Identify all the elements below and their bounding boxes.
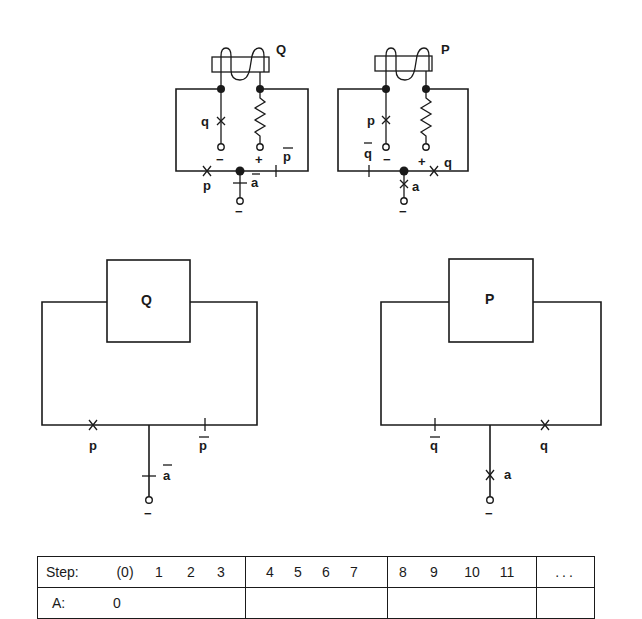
relay-coil-p: [375, 56, 432, 71]
contact-qbar-label: q: [364, 146, 372, 161]
step-number: 7: [340, 564, 368, 580]
step-row: Step: (0) 1 2 3 4 5 6 7 8 9 10 11: [38, 557, 595, 588]
minus-sign: −: [216, 152, 224, 167]
step-number: 4: [256, 564, 284, 580]
relay-label-q: Q: [276, 42, 286, 57]
ground-terminal: [487, 497, 494, 504]
contact-q-label: q: [201, 114, 209, 129]
contact-q-label: q: [540, 438, 548, 453]
coil-winding-icon: [221, 48, 264, 89]
contact-p-label: p: [367, 113, 375, 128]
step-number: 6: [312, 564, 340, 580]
step-number: 11: [492, 564, 522, 580]
contact-pbar-label: p: [283, 149, 291, 164]
minus-sign: −: [235, 204, 243, 219]
register-a-cell-group-1: A: 0: [38, 588, 246, 619]
resistor-icon: [421, 89, 431, 144]
top-right-relay-circuit: P p − + q q a −: [338, 42, 468, 219]
block-p-label: P: [485, 291, 494, 307]
step-cell-group-2: 4 5 6 7: [246, 557, 388, 588]
contact-qbar-label: q: [430, 438, 438, 453]
outer-loop: [42, 302, 257, 425]
bottom-right-block-circuit: P q q a −: [381, 259, 601, 521]
step-number: 10: [452, 564, 492, 580]
step-number: 3: [206, 564, 236, 580]
ground-terminal: [146, 497, 153, 504]
ellipsis: ...: [555, 564, 576, 580]
minus-sign: −: [383, 152, 391, 167]
minus-sign: −: [399, 204, 407, 219]
top-left-relay-circuit: Q q − + p p a −: [176, 42, 308, 219]
terminal-plus: [257, 144, 263, 150]
minus-sign: −: [485, 506, 493, 521]
outer-loop: [381, 302, 601, 425]
block-q-label: Q: [141, 292, 152, 308]
contact-p-label: p: [89, 438, 97, 453]
plus-sign: +: [255, 152, 263, 167]
step-table: Step: (0) 1 2 3 4 5 6 7 8 9 10 11: [37, 556, 595, 619]
step-number: 8: [390, 564, 416, 580]
register-a-cell-more: [537, 588, 595, 619]
register-a-value: 0: [100, 595, 134, 611]
terminal-minus: [383, 144, 389, 150]
register-a-cell-group-3: [388, 588, 537, 619]
register-a-row: A: 0: [38, 588, 595, 619]
terminal-plus: [423, 144, 429, 150]
coil-winding-icon: [386, 48, 429, 89]
relay-label-p: P: [441, 42, 450, 57]
contact-p-label: p: [203, 178, 211, 193]
step-cell-group-1: Step: (0) 1 2 3: [38, 557, 246, 588]
step-label: Step:: [38, 564, 108, 580]
step-number: 1: [142, 564, 176, 580]
terminal-minus: [218, 144, 224, 150]
register-a-label: A:: [38, 595, 100, 611]
step-number: 5: [284, 564, 312, 580]
register-a-cell-group-2: [246, 588, 388, 619]
step-number: 9: [416, 564, 452, 580]
contact-abar-label: a: [251, 175, 259, 190]
step-cell-group-3: 8 9 10 11: [388, 557, 537, 588]
contact-q-label: q: [444, 155, 452, 170]
contact-a-label: a: [504, 467, 512, 482]
minus-sign: −: [144, 506, 152, 521]
step-cell-more: ...: [537, 557, 595, 588]
contact-abar-label: a: [163, 468, 171, 483]
step-number: (0): [108, 564, 142, 580]
contact-a-label: a: [412, 179, 420, 194]
contact-pbar-label: p: [199, 438, 207, 453]
plus-sign: +: [418, 154, 426, 169]
resistor-icon: [255, 89, 265, 144]
step-number: 2: [176, 564, 206, 580]
bottom-left-block-circuit: Q p p a −: [42, 260, 257, 521]
